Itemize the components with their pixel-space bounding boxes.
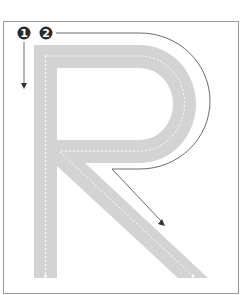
svg-text:2: 2 — [42, 27, 50, 40]
letter-r-track — [34, 45, 208, 278]
arrow-down-icon — [21, 83, 27, 89]
stroke-badge-2: 2 — [40, 27, 53, 41]
letter-tracing-diagram: 1 2 — [0, 0, 246, 295]
bowl-track — [34, 45, 196, 163]
leg-track — [57, 163, 208, 278]
arrow-diagonal-icon — [158, 219, 165, 226]
leg-end-dot — [192, 275, 195, 278]
svg-text:1: 1 — [20, 27, 28, 40]
stem-end-dot — [44, 275, 47, 278]
stroke-badge-1: 1 — [18, 27, 31, 41]
